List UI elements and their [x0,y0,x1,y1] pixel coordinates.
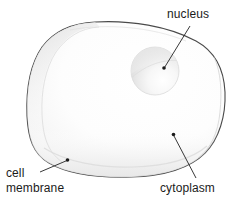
cell-membrane-label-line2: membrane [6,181,64,196]
cell-membrane-label-line1: cell [6,166,64,181]
cell-membrane-label: cell membrane [6,166,64,196]
cytoplasm-pointer-dot [172,133,176,137]
cytoplasm-label: cytoplasm [160,181,215,195]
cell-membrane-pointer-dot [66,158,70,162]
nucleus-label: nucleus [167,7,209,21]
cell-body-group [27,22,227,180]
cell-diagram: nucleus cytoplasm cell membrane [0,0,234,205]
nucleus-pointer-dot [162,66,166,70]
